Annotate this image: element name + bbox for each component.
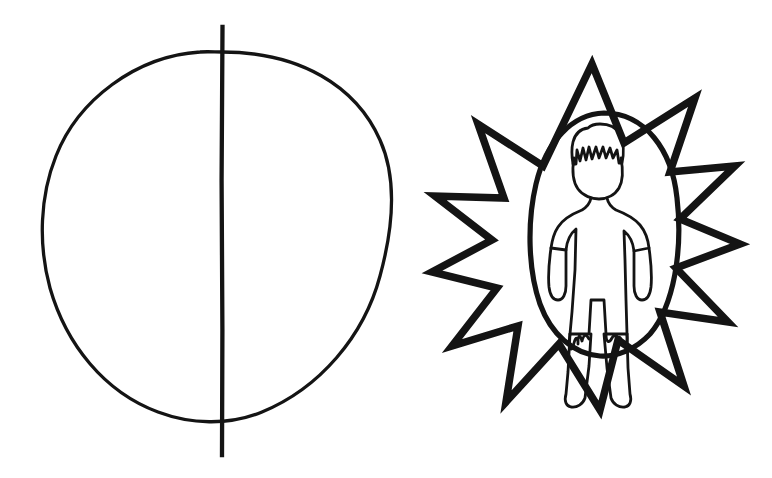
person-head [573,158,622,199]
person-hair [572,124,623,164]
drawing-canvas [0,0,772,478]
figure-starburst-with-person [0,0,772,478]
person-left-leg [569,334,589,349]
person-left-arm [549,248,566,300]
starburst-svg [0,0,772,478]
person-figure [549,124,652,407]
person-right-arm [634,248,651,300]
